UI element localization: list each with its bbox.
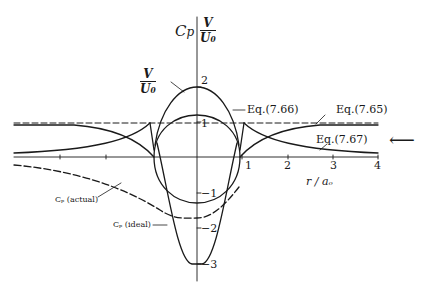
curve-core-edge-left <box>150 123 154 150</box>
label-cp-ideal: Cₚ (ideal) <box>113 221 151 229</box>
y-tick-neg1: −1 <box>201 188 217 199</box>
x-tick-2: 2 <box>284 160 291 171</box>
x-axis-label: r / aₒ <box>306 176 333 187</box>
label-eq-7-65: Eq.(7.65) <box>336 104 388 115</box>
y-tick-neg2: −2 <box>201 223 217 234</box>
curve-core-edge-right <box>240 123 244 150</box>
y-axis-label-v-over-u0: V U₀ <box>200 17 216 45</box>
y-tick-neg3: −3 <box>201 259 217 270</box>
label-eq-7-66: Eq.(7.66) <box>247 104 299 115</box>
y-tick-1: 1 <box>201 118 208 129</box>
y-tick-2: 2 <box>201 75 208 86</box>
label-cp-actual: Cₚ (actual) <box>55 196 98 204</box>
label-eq-7-67: Eq.(7.67) <box>316 134 368 145</box>
flow-direction-arrow-icon: ⟵ <box>389 131 415 149</box>
x-tick-1: 1 <box>245 160 252 171</box>
y-axis-label-cp: Cp <box>175 24 194 39</box>
leader-v-u0 <box>171 82 184 92</box>
x-tick-4: 4 <box>374 160 381 171</box>
curve-label-v-over-u0: V U₀ <box>140 68 156 96</box>
leader-cp-actual <box>98 183 121 197</box>
x-tick-3: 3 <box>330 160 337 171</box>
y-axis-ticks <box>197 87 201 264</box>
